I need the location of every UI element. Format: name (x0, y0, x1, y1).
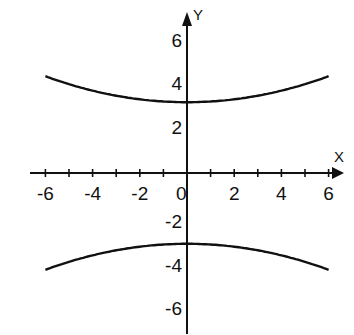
origin-label: 0 (176, 183, 187, 204)
x-tick-label: 6 (323, 183, 334, 204)
x-tick-label: -6 (37, 183, 54, 204)
x-tick-label: -4 (84, 183, 101, 204)
x-axis-label: X (334, 148, 344, 165)
y-tick-label: -6 (165, 298, 182, 319)
y-tick-label: -4 (165, 255, 182, 276)
y-axis-label: Y (193, 6, 203, 23)
x-tick-label: 4 (276, 183, 287, 204)
y-tick-label: 4 (171, 73, 182, 94)
x-arrow-icon (332, 167, 344, 179)
y-arrow-icon (182, 12, 192, 26)
hyperbola-chart: -6-4-2246642-2-4-6 X Y 0 (0, 0, 354, 335)
x-tick-label: 2 (229, 183, 240, 204)
tick-labels: -6-4-2246642-2-4-6 (37, 30, 334, 319)
y-tick-label: 6 (171, 30, 182, 51)
y-tick-label: -2 (165, 211, 182, 232)
x-tick-label: -2 (131, 183, 148, 204)
y-tick-label: 2 (171, 117, 182, 138)
